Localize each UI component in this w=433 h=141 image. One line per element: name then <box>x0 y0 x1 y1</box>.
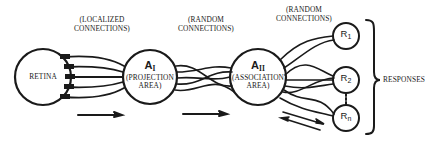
flow-arrow-2 <box>183 111 227 116</box>
response-r2-label: R2 <box>333 73 359 85</box>
symbol-sub: II <box>259 64 265 73</box>
projection-area-label: AI (PROJECTION AREA) <box>122 59 178 91</box>
response-rn-label: Rn <box>333 111 359 123</box>
perceptron-diagram: (LOCALIZED CONNECTIONS) (RANDOM CONNECTI… <box>0 0 433 141</box>
association-area-symbol: AII <box>228 59 288 74</box>
label-line: AREA) <box>228 82 288 91</box>
retina-label: RETINA <box>18 73 68 82</box>
symbol-sub: 1 <box>347 33 351 40</box>
responses-label: RESPONSES <box>378 76 430 85</box>
localized-connections-label: (LOCALIZED CONNECTIONS) <box>72 16 132 33</box>
response-r1-label: R1 <box>333 29 359 41</box>
random-connections-2 <box>280 36 334 116</box>
label-line: CONNECTIONS) <box>176 25 236 34</box>
flow-arrow-1 <box>78 112 122 117</box>
flow-arrow-bidirectional <box>281 112 324 130</box>
association-area-label: AII (ASSOCIATION AREA) <box>228 59 288 91</box>
symbol-main: A <box>251 59 259 71</box>
label-line: CONNECTIONS) <box>72 25 132 34</box>
symbol-sub: 2 <box>347 77 351 84</box>
random-connections-label-2: (RANDOM CONNECTIONS) <box>274 6 334 23</box>
projection-area-symbol: AI <box>122 59 178 74</box>
random-connections-1 <box>175 66 234 92</box>
random-connections-label-1: (RANDOM CONNECTIONS) <box>176 16 236 33</box>
symbol-sub: I <box>153 64 156 73</box>
symbol-sub: n <box>347 115 351 122</box>
symbol-main: A <box>145 59 153 71</box>
label-line: CONNECTIONS) <box>274 15 334 24</box>
label-line: AREA) <box>122 82 178 91</box>
